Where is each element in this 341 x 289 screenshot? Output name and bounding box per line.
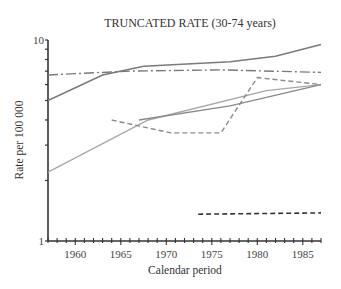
chart-title: TRUNCATED RATE (30-74 years) xyxy=(104,16,276,30)
line-chart: TRUNCATED RATE (30-74 years) 11019601965… xyxy=(0,0,341,289)
axes: 110196019651970197519801985 xyxy=(33,34,321,260)
y-tick-label: 1 xyxy=(39,235,45,247)
x-tick-label: 1975 xyxy=(201,248,224,260)
series-dashed-dark-bottom xyxy=(198,213,321,214)
y-tick-label: 10 xyxy=(33,34,45,46)
x-tick-label: 1960 xyxy=(64,248,87,260)
y-axis-label: Rate per 100 000 xyxy=(13,100,26,179)
series-group xyxy=(48,45,321,215)
series-solid-light xyxy=(48,85,321,173)
x-tick-label: 1970 xyxy=(155,248,178,260)
x-tick-label: 1965 xyxy=(110,248,133,260)
x-axis-label: Calendar period xyxy=(148,264,222,277)
x-tick-label: 1985 xyxy=(292,248,315,260)
series-dash-dot xyxy=(48,70,321,75)
series-dashed-grey xyxy=(112,78,321,133)
series-solid-mid xyxy=(139,85,321,120)
x-tick-label: 1980 xyxy=(246,248,269,260)
